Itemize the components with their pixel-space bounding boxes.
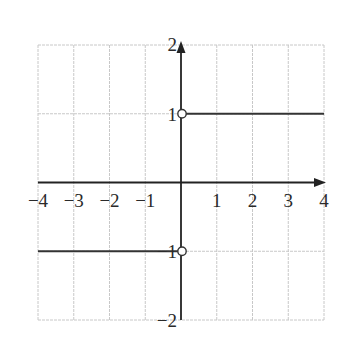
- x-tick-label: 3: [284, 190, 294, 211]
- open-circle-marker: [178, 110, 186, 118]
- x-tick-label: −3: [64, 190, 84, 211]
- y-tick-label: 1: [168, 104, 178, 125]
- y-axis-arrow-icon: [177, 41, 186, 53]
- x-tick-label: 2: [248, 190, 258, 211]
- step-function-graph: −4−3−2−1123421−1−2: [0, 0, 346, 344]
- y-tick-label: −2: [157, 310, 177, 331]
- x-tick-label: −1: [135, 190, 155, 211]
- axes: [38, 41, 326, 320]
- y-tick-label: −1: [157, 241, 177, 262]
- x-tick-label: −2: [99, 190, 119, 211]
- open-circle-marker: [178, 247, 186, 255]
- x-tick-label: 1: [212, 190, 222, 211]
- x-tick-label: −4: [28, 190, 49, 211]
- x-tick-label: 4: [319, 190, 329, 211]
- y-tick-label: 2: [168, 34, 178, 55]
